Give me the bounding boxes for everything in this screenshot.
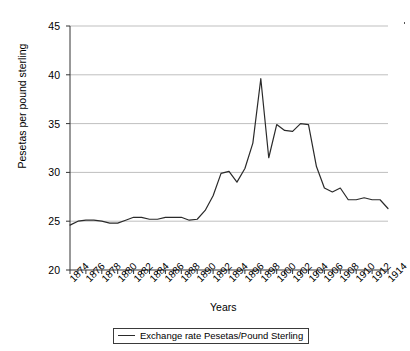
y-tick-label-20: 20 [34,265,60,275]
legend-label: Exchange rate Pesetas/Pound Sterling [140,330,303,341]
corner-speck [404,22,406,24]
x-axis-title: Years [210,301,236,313]
plot-area [0,0,410,351]
y-tick-label-25: 25 [34,216,60,226]
legend-line-swatch [118,335,135,336]
exchange-rate-line-chart: Pesetas per pound sterling 202530354045 … [0,0,410,351]
y-tick-label-35: 35 [34,119,60,129]
y-tick-label-30: 30 [34,167,60,177]
y-axis-title: Pesetas per pound sterling [16,6,28,206]
y-tick-label-40: 40 [34,70,60,80]
y-tick-label-45: 45 [34,21,60,31]
series-line-exchange-rate [70,79,388,225]
chart-legend: Exchange rate Pesetas/Pound Sterling [113,328,309,344]
